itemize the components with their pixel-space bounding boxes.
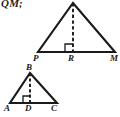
geometry-figure-page: QM; P M R A C B D [0,0,120,117]
upper-triangle-group [38,3,115,52]
foot-label-R: R [68,54,74,63]
vertex-label-M: M [110,54,118,63]
vertex-label-A: A [4,104,10,113]
lower-triangle-group [10,73,57,103]
triangle-PRM-outline [38,3,115,52]
foot-label-D: D [25,104,32,113]
vertex-label-P: P [33,54,39,63]
vertex-label-B: B [26,63,32,72]
vertex-label-C: C [51,104,57,113]
triangle-ABC-outline [10,73,57,103]
figure-canvas [0,0,120,117]
right-angle-marker-upper [65,44,73,52]
